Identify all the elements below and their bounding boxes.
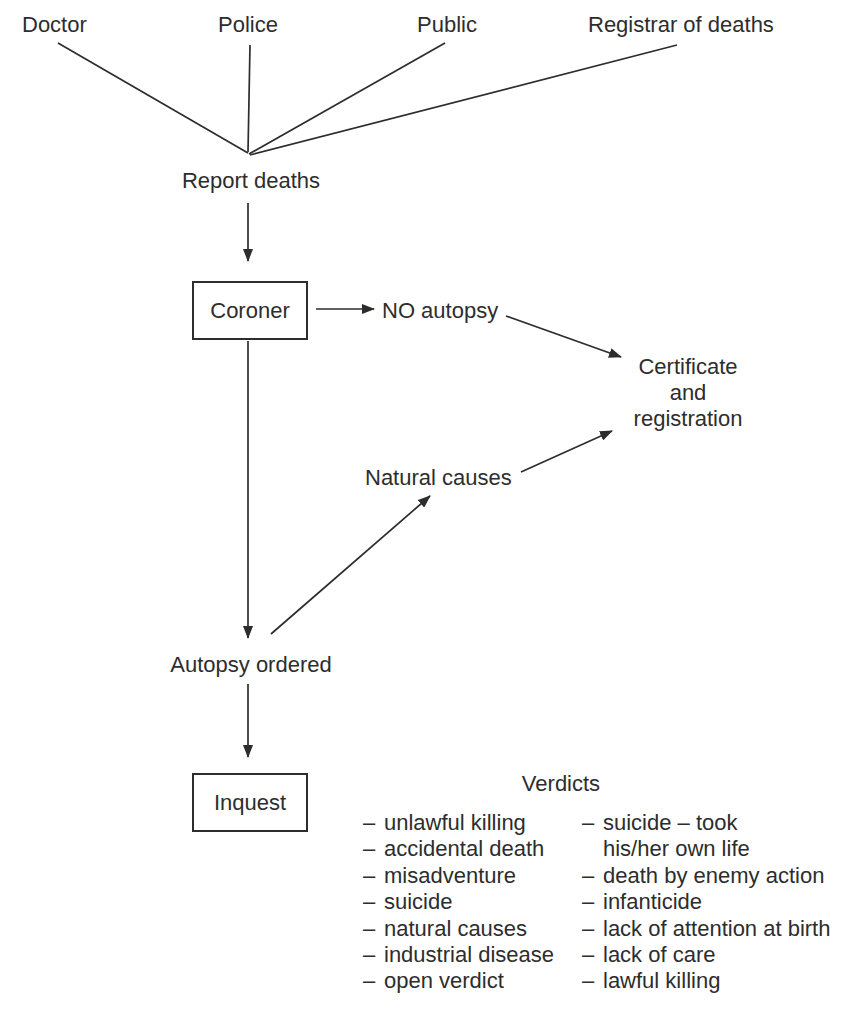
certificate-line-1: Certificate	[634, 354, 743, 380]
coroner-box: Coroner	[192, 281, 308, 340]
certificate-registration-label: Certificate and registration	[634, 354, 743, 432]
verdict-text: natural causes	[384, 916, 527, 942]
verdict-item: –accidental death	[363, 836, 554, 862]
source-registrar: Registrar of deaths	[588, 12, 774, 38]
verdict-text: death by enemy action	[603, 863, 824, 889]
verdict-item: –death by enemy action	[582, 863, 830, 889]
line-police-to-report	[248, 45, 250, 152]
dash-bullet: –	[363, 889, 384, 915]
line-doctor-to-report	[58, 43, 248, 153]
verdict-item: –lack of care	[582, 942, 830, 968]
autopsy-ordered-label: Autopsy ordered	[170, 652, 331, 678]
dash-bullet: –	[363, 863, 384, 889]
verdict-text: suicide – took	[603, 810, 738, 836]
dash-bullet: –	[363, 916, 384, 942]
inquest-label: Inquest	[214, 790, 286, 816]
verdict-text: open verdict	[384, 968, 504, 994]
dash-bullet: –	[582, 942, 603, 968]
verdict-item: his/her own life	[582, 836, 830, 862]
dash-bullet: –	[363, 968, 384, 994]
arrow-natural-causes-to-certificate	[521, 431, 612, 472]
natural-causes-label: Natural causes	[365, 465, 512, 491]
verdict-item: –unlawful killing	[363, 810, 554, 836]
no-autopsy-label: NO autopsy	[382, 298, 498, 324]
dash-bullet: –	[582, 810, 603, 836]
verdict-item: –lack of attention at birth	[582, 916, 830, 942]
dash-bullet: –	[582, 889, 603, 915]
flowchart-canvas: Doctor Police Public Registrar of deaths…	[0, 0, 854, 1021]
verdict-text: lack of care	[603, 942, 716, 968]
verdict-text: misadventure	[384, 863, 516, 889]
verdict-text: industrial disease	[384, 942, 554, 968]
dash-bullet: –	[582, 916, 603, 942]
source-doctor: Doctor	[22, 12, 87, 38]
verdicts-title: Verdicts	[522, 771, 600, 797]
dash-bullet: –	[363, 836, 384, 862]
verdict-item: –industrial disease	[363, 942, 554, 968]
verdict-item: –open verdict	[363, 968, 554, 994]
verdicts-left-column: –unlawful killing –accidental death –mis…	[363, 810, 554, 995]
verdict-text: unlawful killing	[384, 810, 526, 836]
dash-bullet: –	[582, 968, 603, 994]
coroner-label: Coroner	[210, 298, 289, 324]
line-registrar-to-report	[250, 45, 677, 155]
verdict-item: –natural causes	[363, 916, 554, 942]
arrow-autopsy-to-natural-causes	[271, 496, 430, 634]
inquest-box: Inquest	[192, 773, 308, 832]
certificate-line-2: and	[634, 380, 743, 406]
verdict-text: lawful killing	[603, 968, 720, 994]
verdict-item: –suicide	[363, 889, 554, 915]
report-deaths-label: Report deaths	[182, 168, 320, 194]
verdicts-right-column: –suicide – took his/her own life –death …	[582, 810, 830, 995]
verdict-text: suicide	[384, 889, 452, 915]
verdict-item: –lawful killing	[582, 968, 830, 994]
dash-bullet: –	[582, 863, 603, 889]
dash-bullet: –	[363, 942, 384, 968]
arrow-no-autopsy-to-certificate	[506, 316, 621, 357]
verdict-text: infanticide	[603, 889, 702, 915]
certificate-line-3: registration	[634, 406, 743, 432]
verdict-item: –suicide – took	[582, 810, 830, 836]
verdict-text: his/her own life	[603, 836, 750, 862]
verdict-item: –misadventure	[363, 863, 554, 889]
dash-bullet	[582, 836, 603, 862]
source-police: Police	[218, 12, 278, 38]
verdict-text: lack of attention at birth	[603, 916, 830, 942]
verdict-item: –infanticide	[582, 889, 830, 915]
source-public: Public	[417, 12, 477, 38]
verdict-text: accidental death	[384, 836, 544, 862]
dash-bullet: –	[363, 810, 384, 836]
line-public-to-report	[249, 43, 445, 154]
